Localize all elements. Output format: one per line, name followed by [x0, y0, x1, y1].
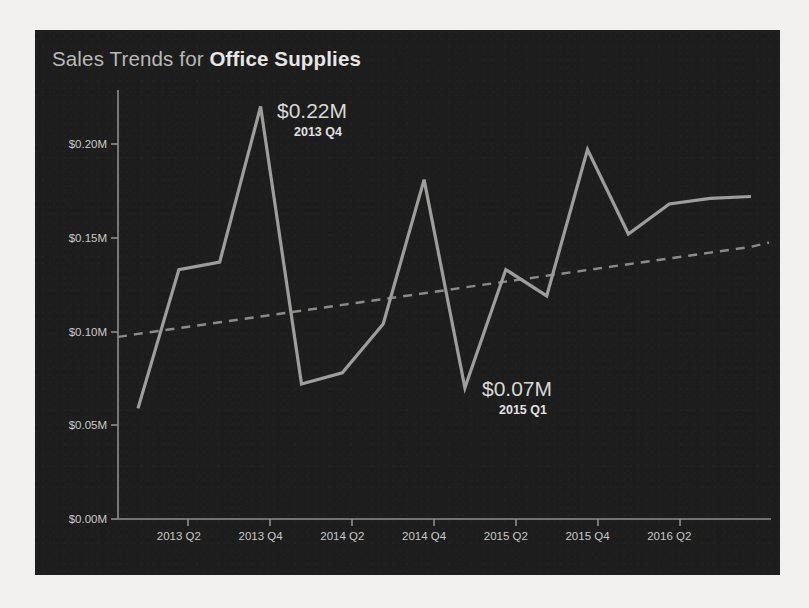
y-axis-tick-label: $0.00M — [69, 513, 107, 525]
x-axis-tick-label: 2015 Q2 — [484, 530, 528, 542]
trend-line — [118, 243, 769, 337]
annotation-value: $0.07M — [482, 378, 552, 400]
annotation-period: 2015 Q1 — [499, 400, 552, 420]
line-chart-plot — [35, 30, 780, 575]
y-axis-tick-label: $0.10M — [69, 326, 107, 338]
x-axis-tick-label: 2013 Q2 — [157, 530, 201, 542]
x-axis-tick-label: 2013 Q4 — [239, 530, 283, 542]
y-axis-tick-label: $0.15M — [69, 232, 107, 244]
x-tick-marks — [188, 519, 680, 526]
annotation-value: $0.22M — [277, 100, 347, 122]
annotation-period: 2013 Q4 — [294, 122, 347, 142]
chart-panel: Sales Trends for Office Supplies — [35, 30, 780, 575]
x-axis-tick-label: 2014 Q4 — [402, 530, 446, 542]
y-axis-tick-label: $0.05M — [69, 419, 107, 431]
x-axis-tick-label: 2015 Q4 — [565, 530, 609, 542]
y-axis-tick-label: $0.20M — [69, 138, 107, 150]
chart-page: Sales Trends for Office Supplies — [0, 0, 809, 608]
y-tick-marks — [111, 144, 118, 519]
x-axis-tick-label: 2014 Q2 — [320, 530, 364, 542]
x-axis-tick-label: 2016 Q2 — [647, 530, 691, 542]
low-annotation: $0.07M2015 Q1 — [482, 378, 552, 420]
peak-annotation: $0.22M2013 Q4 — [277, 100, 347, 142]
sales-line — [138, 107, 751, 409]
